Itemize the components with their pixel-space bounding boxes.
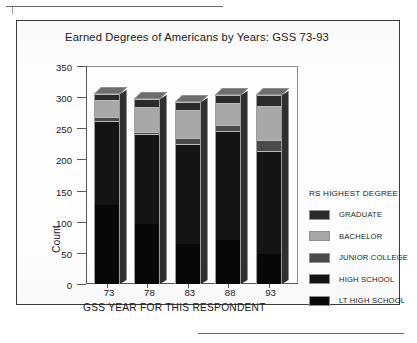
bar-segment: [135, 107, 159, 132]
x-tick-label: 93: [265, 287, 276, 298]
plot-frame-right: [297, 66, 298, 284]
bar-segment: [176, 144, 200, 244]
legend-swatch: [309, 253, 330, 263]
bar-segment: [257, 151, 281, 254]
y-tick-label: 0: [67, 280, 72, 291]
y-tick: 0: [77, 284, 86, 285]
bar-segment: [257, 254, 281, 284]
legend-item: LT HIGH SCHOOL: [309, 294, 417, 307]
legend-swatch: [309, 274, 330, 284]
legend-label: JUNIOR COLLEGE: [339, 253, 408, 262]
bar-83: [175, 102, 201, 284]
bar-73: [94, 94, 120, 284]
bar-segment: [216, 131, 240, 240]
bar-segment: [135, 224, 159, 284]
x-tick-label: 88: [225, 287, 236, 298]
legend-swatch: [309, 296, 330, 306]
bar-front-face: [134, 99, 160, 284]
legend-item: GRADUATE: [309, 208, 417, 221]
legend-item: JUNIOR COLLEGE: [309, 251, 417, 264]
legend-title: RS HIGHEST DEGREE: [309, 189, 417, 198]
bar-segment: [257, 95, 281, 106]
bar-side-face: [201, 97, 208, 284]
y-tick: 200: [77, 159, 86, 160]
legend-items: GRADUATEBACHELORJUNIOR COLLEGEHIGH SCHOO…: [309, 208, 417, 307]
legend-label: HIGH SCHOOL: [339, 275, 394, 284]
legend-label: GRADUATE: [339, 210, 382, 219]
bar-side-face: [160, 95, 167, 284]
x-tick-label: 73: [104, 287, 115, 298]
bar-segment: [216, 103, 240, 125]
bar-segment: [95, 121, 119, 205]
bar-segment: [257, 140, 281, 151]
chart-title: Earned Degrees of Americans by Years: GS…: [17, 31, 399, 43]
y-tick: 50: [77, 253, 86, 254]
y-tick-label: 250: [56, 124, 72, 135]
y-tick: 250: [77, 128, 86, 129]
bar-segment: [176, 110, 200, 138]
bar-front-face: [94, 94, 120, 284]
y-tick-label: 300: [56, 93, 72, 104]
x-tick: [147, 284, 148, 288]
bar-segment: [95, 100, 119, 117]
y-tick-label: 50: [61, 248, 72, 259]
bar-front-face: [215, 95, 241, 284]
y-tick: 100: [77, 222, 86, 223]
x-tick: [188, 284, 189, 288]
bar-segment: [257, 106, 281, 140]
x-tick: [107, 284, 108, 288]
bar-side-face: [241, 91, 248, 284]
legend-item: HIGH SCHOOL: [309, 273, 417, 286]
page-rule-top: [6, 6, 223, 7]
plot-area: 050100150200250300350 7378838893: [86, 66, 298, 284]
legend-label: BACHELOR: [339, 232, 382, 241]
bar-segment: [176, 102, 200, 110]
bar-front-face: [175, 102, 201, 284]
bar-78: [134, 99, 160, 284]
legend-item: BACHELOR: [309, 230, 417, 243]
y-tick: 150: [77, 191, 86, 192]
x-axis-title: GSS YEAR FOR THIS RESPONDENT: [83, 302, 266, 313]
page-rule-bottom: [198, 333, 404, 334]
y-tick-label: 350: [56, 62, 72, 73]
chart-legend: RS HIGHEST DEGREE GRADUATEBACHELORJUNIOR…: [309, 189, 417, 316]
page-rule-top-tick: [12, 7, 13, 14]
x-tick: [269, 284, 270, 288]
bar-88: [215, 95, 241, 284]
bar-segment: [95, 205, 119, 284]
bar-segment: [216, 95, 240, 102]
y-axis-line: [86, 66, 87, 284]
legend-label: LT HIGH SCHOOL: [339, 296, 405, 305]
bar-front-face: [256, 95, 282, 284]
x-tick-label: 78: [144, 287, 155, 298]
plot-frame-top: [86, 66, 298, 67]
x-tick-label: 83: [184, 287, 195, 298]
x-tick: [228, 284, 229, 288]
y-tick-label: 100: [56, 217, 72, 228]
bar-segment: [176, 244, 200, 284]
y-tick: 300: [77, 97, 86, 98]
bar-93: [256, 95, 282, 284]
bar-segment: [135, 99, 159, 107]
legend-swatch: [309, 210, 330, 220]
bar-side-face: [282, 90, 289, 284]
bar-segment: [135, 134, 159, 224]
legend-swatch: [309, 231, 330, 241]
bar-segment: [216, 240, 240, 284]
bar-side-face: [120, 90, 127, 284]
chart-figure: Earned Degrees of Americans by Years: GS…: [16, 20, 400, 305]
y-tick-label: 150: [56, 186, 72, 197]
y-tick: 350: [77, 66, 86, 67]
y-tick-label: 200: [56, 155, 72, 166]
